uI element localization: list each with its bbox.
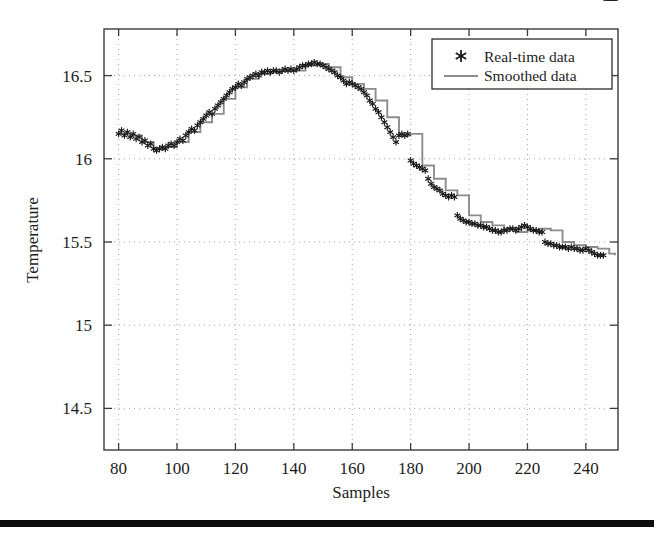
x-tick-label: 240 xyxy=(573,459,599,478)
legend-label-smoothed-data: Smoothed data xyxy=(484,67,577,84)
y-tick-label: 16.5 xyxy=(62,67,92,86)
temperature-vs-samples-chart: 80100120140160180200220240 14.51515.5161… xyxy=(0,0,654,544)
x-tick-label: 140 xyxy=(281,459,307,478)
x-tick-label: 160 xyxy=(339,459,365,478)
y-tick-label: 16 xyxy=(75,150,92,169)
x-axis-label: Samples xyxy=(332,483,390,502)
chart-figure: 80100120140160180200220240 14.51515.5161… xyxy=(0,0,654,544)
y-tick-label: 14.5 xyxy=(62,399,92,418)
y-tick-label: 15 xyxy=(75,316,92,335)
x-tick-label: 180 xyxy=(398,459,424,478)
x-tick-label: 120 xyxy=(223,459,249,478)
y-axis-label: Temperature xyxy=(23,197,42,283)
x-tick-label: 200 xyxy=(456,459,482,478)
legend-label-real-time-data: Real-time data xyxy=(484,48,575,65)
chart-legend: Real-time data Smoothed data xyxy=(432,39,612,89)
x-tick-label: 80 xyxy=(110,459,127,478)
y-tick-label: 15.5 xyxy=(62,233,92,252)
page-scan-rule xyxy=(0,520,654,527)
x-tick-label: 220 xyxy=(515,459,541,478)
x-tick-label: 100 xyxy=(164,459,190,478)
